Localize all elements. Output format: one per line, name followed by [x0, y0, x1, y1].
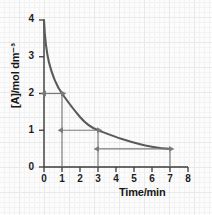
x-tick-label-5: 5	[128, 173, 140, 184]
y-tick-label-3: 3	[22, 50, 34, 61]
y-tick-label-2: 2	[22, 87, 34, 98]
x-tick-label-3: 3	[92, 173, 104, 184]
x-tick-label-6: 6	[146, 173, 158, 184]
y-tick-marks	[39, 20, 44, 167]
x-tick-label-4: 4	[110, 173, 122, 184]
x-tick-marks	[44, 167, 188, 172]
plot-area	[0, 0, 212, 215]
x-tick-label-0: 0	[38, 173, 50, 184]
x-tick-label-7: 7	[164, 173, 176, 184]
y-tick-label-1: 1	[22, 124, 34, 135]
chart-figure: 0 1 2 3 4 0 1 2 3 4 5 6 7 8 [A]/mol dm⁻³…	[0, 0, 212, 215]
x-tick-label-8: 8	[182, 173, 194, 184]
y-tick-label-0: 0	[22, 161, 34, 172]
y-axis-label: [A]/mol dm⁻³	[9, 43, 22, 108]
decay-curve	[44, 20, 170, 149]
x-tick-label-2: 2	[74, 173, 86, 184]
y-tick-label-4: 4	[22, 13, 34, 24]
x-tick-label-1: 1	[56, 173, 68, 184]
x-axis-label: Time/min	[119, 186, 166, 198]
